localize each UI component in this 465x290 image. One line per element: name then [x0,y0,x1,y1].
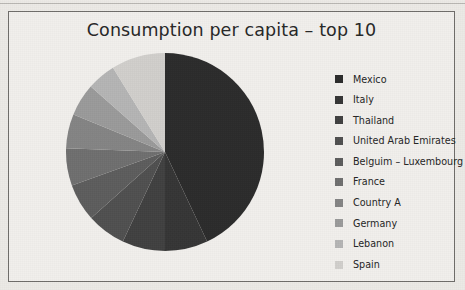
legend-item[interactable]: Thailand [327,110,462,131]
legend-item-label: Belguim – Luxembourg [353,157,463,167]
legend-swatch-icon [335,240,343,248]
legend-item-label: Thailand [353,116,394,126]
legend-item[interactable]: Country A [327,193,462,214]
pie-slice-group [66,53,264,251]
page-top-rule [0,3,465,4]
legend-swatch-icon [335,261,343,269]
pie-chart [66,52,272,260]
legend-item-label: France [353,177,385,187]
chart-title: Consumption per capita – top 10 [9,20,454,40]
legend-item-label: Country A [353,198,401,208]
legend-item[interactable]: Italy [327,90,462,111]
legend-swatch-icon [335,199,343,207]
legend-item-label: Mexico [353,75,387,85]
legend-item[interactable]: Mexico [327,69,462,90]
legend-item-label: Germany [353,219,397,229]
legend-item[interactable]: Belguim – Luxembourg [327,151,462,172]
legend-swatch-icon [335,219,343,227]
legend-item[interactable]: United Arab Emirates [327,131,462,152]
legend-item[interactable]: Lebanon [327,234,462,255]
legend-swatch-icon [335,158,343,166]
legend-swatch-icon [335,75,343,83]
legend-swatch-icon [335,116,343,124]
legend-item-label: United Arab Emirates [353,136,456,146]
legend-item[interactable]: Germany [327,213,462,234]
legend-item-label: Lebanon [353,239,394,249]
legend-swatch-icon [335,137,343,145]
legend-item[interactable]: France [327,172,462,193]
legend-item-label: Spain [353,260,380,270]
chart-frame: Consumption per capita – top 10 MexicoIt… [8,11,455,282]
legend-swatch-icon [335,96,343,104]
legend-item-label: Italy [353,95,374,105]
legend-item[interactable]: Spain [327,254,462,275]
pie-chart-svg [66,52,272,260]
chart-legend: MexicoItalyThailandUnited Arab EmiratesB… [327,69,462,275]
legend-swatch-icon [335,178,343,186]
